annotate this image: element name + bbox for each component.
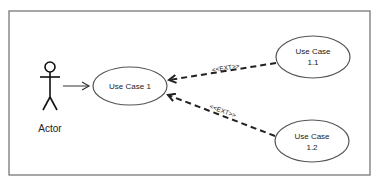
use-case-1-2[interactable]: Use Case 1.2 <box>275 120 349 162</box>
use-case-1-2-label-line2: 1.2 <box>306 143 318 152</box>
use-case-diagram: Actor Use Case 1 Use Case 1.1 Use Case 1… <box>0 0 379 185</box>
use-case-1[interactable]: Use Case 1 <box>93 67 167 105</box>
use-case-1-1-label-line2: 1.1 <box>307 58 319 67</box>
use-case-1-label: Use Case 1 <box>109 82 151 91</box>
actor-label: Actor <box>38 123 62 134</box>
use-case-1-2-label-line1: Use Case <box>294 132 330 141</box>
use-case-1-1[interactable]: Use Case 1.1 <box>276 36 350 78</box>
use-case-1-1-label-line1: Use Case <box>295 47 331 56</box>
